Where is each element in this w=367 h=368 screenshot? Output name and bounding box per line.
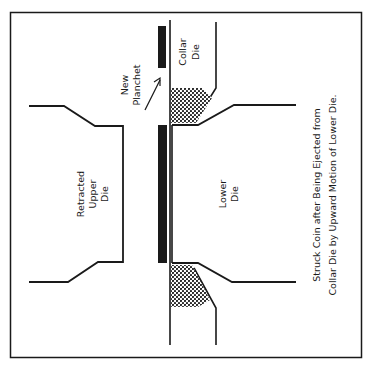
svg-text:Collar: Collar bbox=[177, 38, 188, 66]
svg-text:New: New bbox=[119, 74, 130, 95]
svg-text:Struck Coin after Being Ejecte: Struck Coin after Being Ejected from bbox=[311, 108, 322, 282]
svg-text:Die: Die bbox=[99, 186, 110, 202]
label-collar-die: Collar Die bbox=[177, 38, 201, 66]
collar-die-hatch-top bbox=[171, 88, 212, 123]
label-upper-die: Retracted Upper Die bbox=[75, 171, 110, 217]
coin-press-diagram: New Planchet Collar Die Retracted Upper … bbox=[0, 0, 367, 368]
svg-text:Die: Die bbox=[190, 44, 201, 60]
label-lower-die: Lower Die bbox=[217, 180, 240, 209]
diagram-caption: Struck Coin after Being Ejected from Col… bbox=[311, 94, 338, 295]
svg-text:Retracted: Retracted bbox=[75, 171, 86, 217]
svg-text:Upper: Upper bbox=[87, 180, 98, 209]
svg-text:Planchet: Planchet bbox=[131, 64, 142, 105]
struck-coin bbox=[158, 125, 167, 263]
planchet-arrow bbox=[145, 78, 160, 110]
svg-text:Collar Die by Upward Motion of: Collar Die by Upward Motion of Lower Die… bbox=[327, 94, 338, 295]
svg-text:Die: Die bbox=[229, 186, 240, 202]
new-planchet bbox=[158, 26, 166, 68]
svg-text:Lower: Lower bbox=[217, 180, 228, 209]
label-new-planchet: New Planchet bbox=[119, 64, 142, 105]
